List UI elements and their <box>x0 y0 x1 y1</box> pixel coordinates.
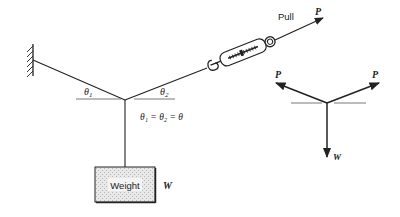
fbd-left-force-label: P <box>275 69 282 80</box>
fbd-left-force-arrow <box>276 83 327 103</box>
free-body-diagram: P P W <box>275 69 379 162</box>
left-rope <box>33 60 125 100</box>
weight-block: Weight <box>95 167 156 203</box>
theta2-label: θ2 <box>160 86 169 99</box>
theta1-label: θ1 <box>84 86 92 99</box>
fbd-right-force-arrow <box>327 83 379 103</box>
wall-support <box>27 44 33 77</box>
fbd-down-force-label: W <box>333 152 342 162</box>
pull-force-label: P <box>315 6 322 17</box>
weight-symbol: W <box>163 180 173 191</box>
fbd-right-force-label: P <box>372 69 379 80</box>
pull-label: Pull <box>278 11 294 22</box>
angle-equation: θ₁ = θ₂ = θ <box>140 112 183 122</box>
force-diagram: θ1 θ2 θ₁ = θ₂ = θ Weight W <box>0 0 400 217</box>
weight-label: Weight <box>110 180 140 191</box>
spring-scale <box>205 33 277 72</box>
